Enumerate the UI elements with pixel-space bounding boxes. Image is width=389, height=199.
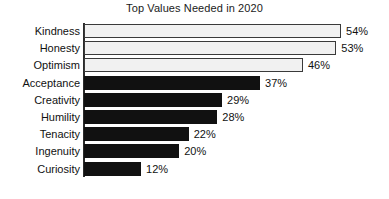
bar-rect — [84, 41, 336, 55]
bar-value-label: 37% — [265, 75, 287, 92]
bar-row: Acceptance37% — [0, 75, 389, 92]
bar-category-label: Acceptance — [0, 75, 80, 92]
bar-category-label: Humility — [0, 109, 80, 126]
bar-track — [84, 127, 189, 141]
plot-area: Kindness54%Honesty53%Optimism46%Acceptan… — [0, 23, 389, 195]
bar-rect — [84, 24, 341, 38]
bar-track — [84, 24, 341, 38]
bar-rect — [84, 58, 303, 72]
bar-rect — [84, 127, 189, 141]
bar-track — [84, 76, 260, 90]
bar-row: Curiosity12% — [0, 161, 389, 178]
bar-value-label: 54% — [346, 23, 368, 40]
bar-track — [84, 162, 141, 176]
bar-rect — [84, 144, 179, 158]
bar-rect — [84, 76, 260, 90]
bar-value-label: 20% — [184, 143, 206, 160]
bar-track — [84, 110, 217, 124]
bar-value-label: 12% — [146, 161, 168, 178]
bar-category-label: Honesty — [0, 40, 80, 57]
bar-category-label: Curiosity — [0, 161, 80, 178]
bar-rect — [84, 110, 217, 124]
bar-track — [84, 144, 179, 158]
bar-value-label: 29% — [227, 92, 249, 109]
bar-value-label: 28% — [222, 109, 244, 126]
bar-chart: Top Values Needed in 2020 Kindness54%Hon… — [0, 0, 389, 199]
bar-row: Kindness54% — [0, 23, 389, 40]
bar-value-label: 22% — [194, 126, 216, 143]
bar-rect — [84, 93, 222, 107]
bar-row: Humility28% — [0, 109, 389, 126]
bar-row: Tenacity22% — [0, 126, 389, 143]
bar-track — [84, 93, 222, 107]
bar-row: Optimism46% — [0, 57, 389, 74]
bar-rect — [84, 162, 141, 176]
bar-category-label: Tenacity — [0, 126, 80, 143]
bar-track — [84, 58, 303, 72]
bar-category-label: Optimism — [0, 57, 80, 74]
bar-category-label: Creativity — [0, 92, 80, 109]
chart-title: Top Values Needed in 2020 — [0, 2, 389, 14]
bar-value-label: 53% — [341, 40, 363, 57]
bar-category-label: Ingenuity — [0, 143, 80, 160]
bar-row: Honesty53% — [0, 40, 389, 57]
bar-value-label: 46% — [308, 57, 330, 74]
bar-row: Ingenuity20% — [0, 143, 389, 160]
bar-track — [84, 41, 336, 55]
bar-category-label: Kindness — [0, 23, 80, 40]
bar-row: Creativity29% — [0, 92, 389, 109]
